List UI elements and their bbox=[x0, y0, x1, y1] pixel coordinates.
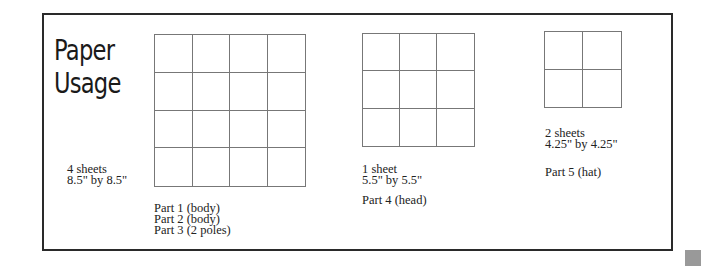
grid-5-5-inch bbox=[362, 33, 475, 147]
title-line-2: Usage bbox=[54, 67, 121, 100]
sheet-1-parts: Part 1 (body) Part 2 (body) Part 3 (2 po… bbox=[154, 203, 231, 236]
grid-8-5-inch bbox=[154, 34, 306, 187]
page-title: Paper Usage bbox=[54, 34, 121, 100]
corner-block bbox=[685, 250, 701, 266]
sheet-3-parts: Part 5 (hat) bbox=[545, 167, 601, 178]
part-label: Part 5 (hat) bbox=[545, 167, 601, 178]
sheet-1-info: 4 sheets 8.5" by 8.5" bbox=[67, 164, 127, 186]
sheet-3-size: 4.25" by 4.25" bbox=[545, 139, 618, 150]
title-line-1: Paper bbox=[54, 34, 121, 67]
sheet-2-size: 5.5" by 5.5" bbox=[362, 175, 422, 186]
grid-4-25-inch bbox=[544, 31, 622, 108]
sheet-3-info: 2 sheets 4.25" by 4.25" bbox=[545, 128, 618, 150]
sheet-1-size: 8.5" by 8.5" bbox=[67, 175, 127, 186]
part-label: Part 3 (2 poles) bbox=[154, 225, 231, 236]
sheet-2-info: 1 sheet 5.5" by 5.5" bbox=[362, 164, 422, 186]
sheet-2-parts: Part 4 (head) bbox=[362, 195, 427, 206]
part-label: Part 4 (head) bbox=[362, 195, 427, 206]
